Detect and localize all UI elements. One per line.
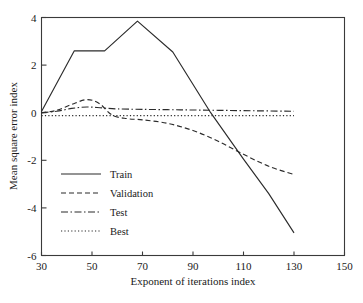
- y-tick-label: -2: [27, 154, 36, 166]
- chart-figure: 30507090110130150 420-2-4-6 TrainValidat…: [0, 0, 363, 303]
- legend-label-train: Train: [110, 169, 133, 180]
- series-lines: [42, 21, 295, 233]
- series-line-test: [42, 107, 295, 113]
- y-axis-label: Mean square error index: [7, 82, 19, 190]
- x-tick-label: 130: [286, 260, 303, 272]
- mean-square-error-line-chart: 30507090110130150 420-2-4-6 TrainValidat…: [0, 0, 363, 303]
- x-tick-label: 150: [336, 260, 353, 272]
- chart-legend: TrainValidationTestBest: [61, 169, 154, 237]
- y-tick-label: -6: [27, 250, 37, 262]
- y-tick-label: 2: [31, 59, 37, 71]
- x-tick-label: 50: [87, 260, 99, 272]
- y-tick-label: -4: [27, 202, 37, 214]
- x-axis-label: Exponent of iterations index: [131, 275, 256, 287]
- x-tick-label: 30: [36, 260, 48, 272]
- series-line-train: [42, 21, 295, 233]
- plot-frame: [42, 18, 345, 256]
- y-tick-label: 0: [31, 107, 37, 119]
- x-tick-label: 70: [137, 260, 149, 272]
- x-axis-ticks: 30507090110130150: [36, 252, 353, 272]
- legend-label-test: Test: [110, 207, 127, 218]
- legend-label-validation: Validation: [110, 188, 154, 199]
- y-axis-ticks: 420-2-4-6: [27, 12, 46, 262]
- legend-label-best: Best: [110, 226, 129, 237]
- x-tick-label: 90: [188, 260, 200, 272]
- series-line-validation: [42, 100, 295, 175]
- x-tick-label: 110: [235, 260, 252, 272]
- y-tick-label: 4: [31, 12, 37, 24]
